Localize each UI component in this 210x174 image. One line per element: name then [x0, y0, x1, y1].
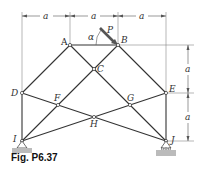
joint-label-j: J: [169, 135, 176, 145]
joint-label-h: H: [89, 119, 98, 129]
truss-diagram: a a a a a α P: [0, 0, 210, 174]
dim-right-2: a: [185, 112, 190, 122]
angle-arc: [96, 30, 101, 45]
joint-label-f: F: [53, 93, 61, 103]
joint-label-a: A: [60, 37, 68, 47]
joint-label-i: I: [12, 134, 17, 144]
joint-label-d: D: [10, 88, 18, 98]
joint-label-b: B: [120, 35, 128, 45]
dim-right-1: a: [185, 64, 190, 74]
load-label: P: [106, 25, 114, 35]
joint-label-c: C: [97, 64, 104, 74]
dim-top-1: a: [43, 11, 48, 21]
figure-caption: Fig. P6.37: [11, 152, 58, 163]
angle-label: α: [88, 32, 94, 42]
dim-top-2: a: [91, 11, 96, 21]
joint-label-e: E: [168, 84, 176, 94]
dim-top-3: a: [139, 11, 144, 21]
joint-label-g: G: [127, 93, 134, 103]
